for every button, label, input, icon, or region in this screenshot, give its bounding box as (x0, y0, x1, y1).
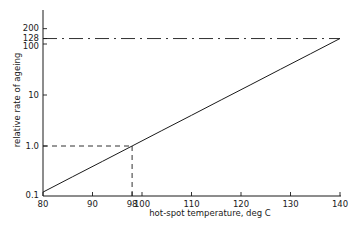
x-axis-label: hot-spot temperature, deg C (149, 208, 271, 218)
x-tick-label: 140 (332, 199, 348, 209)
y-tick-label: 0.1 (25, 190, 39, 200)
y-tick-label: 1.0 (25, 141, 39, 151)
data-series (43, 39, 340, 193)
y-tick-label: 128 (23, 33, 39, 43)
ageing-rate-chart: 8090981001101201301400.11.010100128200 h… (0, 0, 354, 232)
y-axis-label: relative rate of ageing (12, 53, 22, 148)
reference-lines (43, 39, 340, 196)
ageing-rate-line (43, 39, 340, 193)
y-tick-label: 10 (28, 90, 39, 100)
x-tick-label: 80 (38, 199, 49, 209)
ticks: 8090981001101201301400.11.010100128200 (23, 23, 348, 209)
x-tick-label: 90 (87, 199, 98, 209)
y-tick-label: 200 (23, 23, 39, 33)
axes (43, 10, 341, 196)
x-tick-label: 100 (134, 199, 150, 209)
x-tick-label: 130 (282, 199, 298, 209)
